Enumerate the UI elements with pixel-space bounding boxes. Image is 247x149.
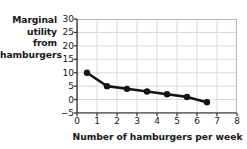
- y-tick-label-7: 30: [52, 15, 74, 24]
- data-series-marginal-utility: [77, 19, 237, 113]
- plot-area: [77, 19, 237, 113]
- y-tick-label-3: 10: [52, 68, 74, 77]
- y-tick-label-6: 25: [52, 28, 74, 37]
- x-tick-label-6: 6: [187, 116, 207, 126]
- y-tick-label-1: 0: [52, 95, 74, 104]
- data-point-4: [164, 91, 170, 97]
- y-axis-title-line-1: utility: [0, 26, 57, 38]
- chart-figure: Marginalutilityfromhamburgers −505101520…: [0, 0, 247, 149]
- x-tick-label-1: 1: [87, 116, 107, 126]
- x-tick-label-4: 4: [147, 116, 167, 126]
- x-tick-label-5: 5: [167, 116, 187, 126]
- y-tick-label-4: 15: [52, 55, 74, 64]
- data-point-0: [84, 70, 90, 76]
- x-tick-label-3: 3: [127, 116, 147, 126]
- x-axis-title: Number of hamburgers per week: [70, 131, 245, 142]
- data-point-6: [204, 99, 210, 105]
- data-point-5: [184, 94, 190, 100]
- y-tick-label-5: 20: [52, 41, 74, 50]
- y-tick-label-2: 5: [52, 82, 74, 91]
- x-tick-label-8: 8: [227, 116, 247, 126]
- x-tick-label-7: 7: [207, 116, 227, 126]
- data-point-3: [144, 88, 150, 94]
- x-axis-tick-labels: 012345678: [0, 116, 247, 130]
- y-axis-title-line-0: Marginal: [0, 14, 57, 26]
- data-point-2: [124, 86, 130, 92]
- x-tick-label-2: 2: [107, 116, 127, 126]
- y-axis-title-line-2: from: [0, 37, 57, 49]
- y-axis-title: Marginalutilityfromhamburgers: [0, 14, 57, 60]
- data-point-1: [104, 83, 110, 89]
- x-tick-label-0: 0: [67, 116, 87, 126]
- y-axis-title-line-3: hamburgers: [0, 49, 57, 61]
